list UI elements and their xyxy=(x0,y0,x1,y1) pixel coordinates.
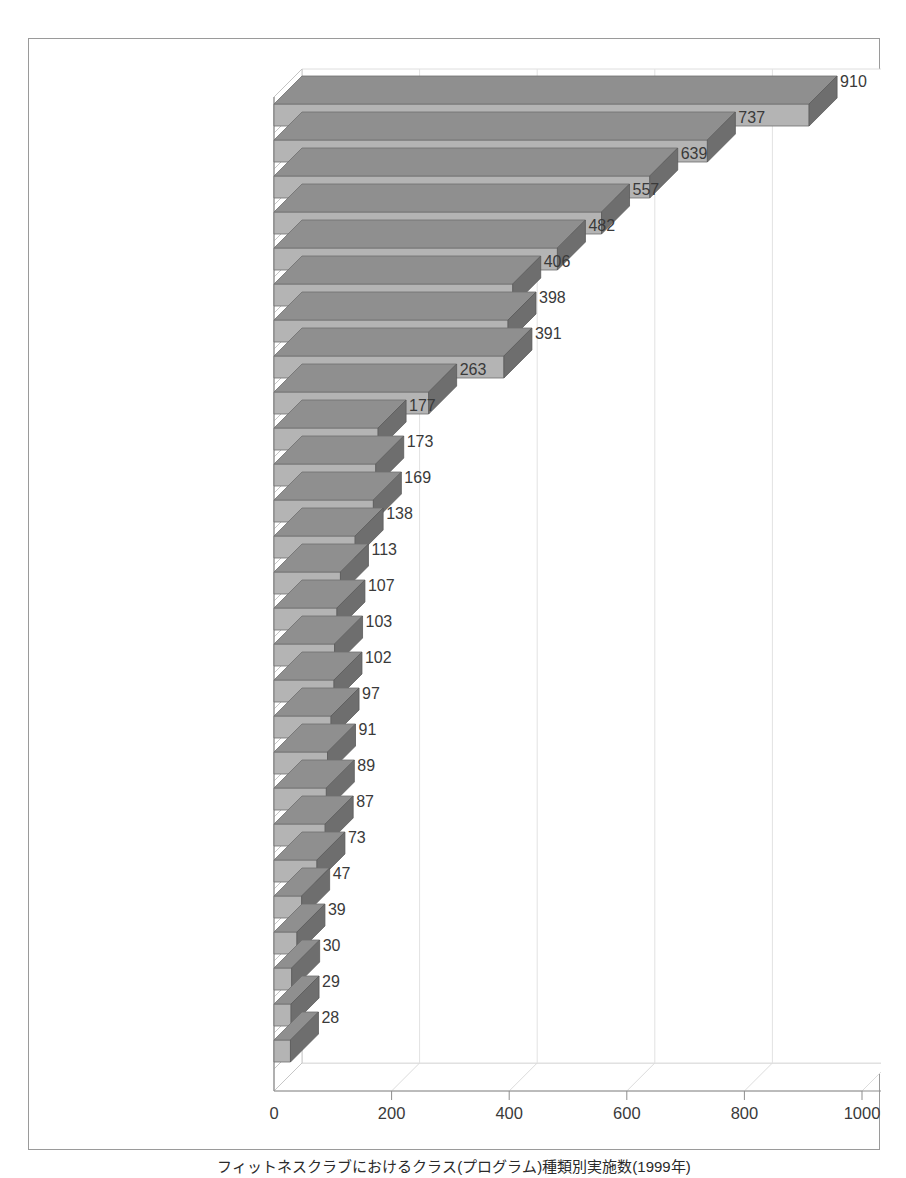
x-tick-label: 1000 xyxy=(844,1105,881,1122)
figure-frame: アクアステップエアロファンク・ヒップホップヨガシェイプアップ系ジャズダンス系中高… xyxy=(28,38,880,1150)
x-tick-label: 800 xyxy=(731,1105,759,1122)
x-tick-label: 600 xyxy=(613,1105,641,1122)
x-axis-tick-labels: 02004006008001000 xyxy=(29,39,881,1151)
figure-caption: フィットネスクラブにおけるクラス(プログラム)種類別実施数(1999年) xyxy=(28,1158,880,1177)
x-tick-label: 0 xyxy=(269,1105,278,1122)
plot-stage: アクアステップエアロファンク・ヒップホップヨガシェイプアップ系ジャズダンス系中高… xyxy=(29,39,881,1151)
x-tick-label: 200 xyxy=(378,1105,406,1122)
x-tick-label: 400 xyxy=(495,1105,523,1122)
